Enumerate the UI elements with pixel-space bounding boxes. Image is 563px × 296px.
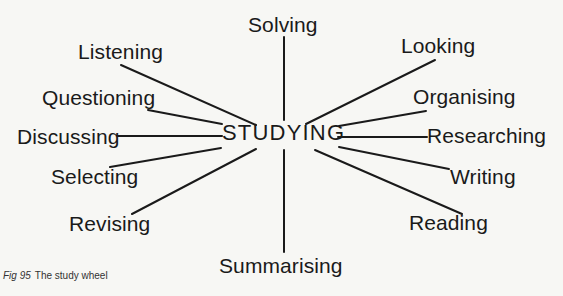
spoke-line-writing: [339, 147, 449, 169]
spoke-label-researching: Researching: [427, 125, 546, 146]
figure-title: The study wheel: [35, 270, 108, 281]
spoke-label-discussing: Discussing: [17, 126, 120, 147]
spoke-label-looking: Looking: [401, 35, 475, 56]
spoke-line-organising: [339, 111, 426, 126]
study-wheel-diagram: STUDYING Solving Listening Questioning D…: [0, 0, 563, 296]
spoke-line-revising: [132, 149, 256, 214]
spoke-label-listening: Listening: [78, 41, 163, 62]
spoke-label-summarising: Summarising: [219, 255, 343, 276]
spoke-label-writing: Writing: [450, 166, 516, 187]
spoke-label-selecting: Selecting: [51, 166, 138, 187]
spoke-line-reading: [315, 150, 462, 214]
spoke-label-questioning: Questioning: [42, 87, 155, 108]
figure-number: Fig 95: [3, 270, 31, 281]
spoke-label-reading: Reading: [409, 212, 488, 233]
spoke-line-questioning: [148, 110, 222, 124]
spoke-label-organising: Organising: [413, 86, 516, 107]
spoke-label-revising: Revising: [69, 213, 150, 234]
spoke-label-solving: Solving: [248, 14, 318, 35]
figure-caption: Fig 95The study wheel: [3, 271, 108, 281]
hub-label-studying: STUDYING: [222, 122, 345, 144]
